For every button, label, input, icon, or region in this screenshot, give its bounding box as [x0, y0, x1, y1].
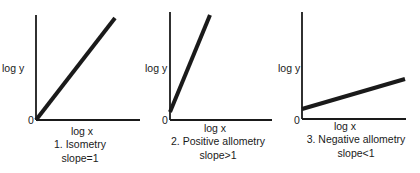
panel-3: log y0log x3. Negative allometryslope<1	[278, 12, 406, 159]
origin-label: 0	[162, 114, 168, 126]
trend-line	[302, 79, 405, 109]
allometry-diagram: log y0log x1. Isometryslope=1log y0log x…	[0, 0, 420, 173]
x-axis-label: log x	[71, 125, 94, 137]
panel-title: 1. Isometry	[54, 138, 107, 150]
x-axis-label: log x	[204, 122, 227, 134]
panel-title: 3. Negative allometry	[307, 133, 406, 145]
origin-label: 0	[294, 114, 300, 126]
x-axis-label: log x	[334, 120, 357, 132]
trend-line	[170, 15, 210, 112]
origin-label: 0	[28, 114, 34, 126]
y-axis-label: log y	[2, 62, 25, 74]
trend-line	[36, 18, 115, 120]
panel-subtitle: slope>1	[199, 149, 236, 161]
panel-subtitle: slope<1	[337, 147, 374, 159]
y-axis-label: log y	[145, 62, 168, 74]
panel-1: log y0log x1. Isometryslope=1	[2, 15, 140, 164]
panel-subtitle: slope=1	[61, 152, 98, 164]
y-axis-label: log y	[278, 62, 301, 74]
panel-title: 2. Positive allometry	[171, 135, 266, 147]
panel-2: log y0log x2. Positive allometryslope>1	[145, 12, 272, 161]
